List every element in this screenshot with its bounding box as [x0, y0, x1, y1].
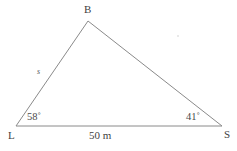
vertex-label-b: B — [84, 4, 91, 15]
base-length-label: 50 m — [89, 130, 111, 141]
side-label-s: s — [37, 68, 40, 76]
angle-label-at-s: 41˚ — [186, 112, 200, 123]
triangle-shape — [0, 0, 237, 151]
angle-label-at-l: 58˚ — [27, 112, 41, 123]
vertex-label-l: L — [8, 130, 15, 141]
stray-speck-artifact — [177, 35, 179, 37]
triangle-diagram: B L S 58˚ 41˚ s 50 m — [0, 0, 237, 151]
side-BS-line — [88, 21, 222, 126]
vertex-label-s: S — [224, 129, 230, 140]
